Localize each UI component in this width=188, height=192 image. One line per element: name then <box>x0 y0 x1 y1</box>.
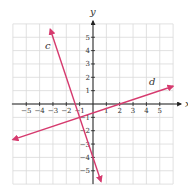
line-c-label: c <box>45 40 51 51</box>
x-tick-label: 2 <box>117 107 121 115</box>
y-tick-label: 4 <box>86 47 91 55</box>
coordinate-plane: xy −5−4−3−2−112345−5−4−3−2−112345 cd <box>0 0 188 192</box>
x-tick-label: −2 <box>61 107 71 115</box>
y-tick-label: 5 <box>86 34 90 42</box>
y-axis-label: y <box>89 6 96 17</box>
line-d-label: d <box>149 76 155 87</box>
y-tick-label: −4 <box>80 154 91 162</box>
x-axis-label: x <box>185 98 188 109</box>
x-tick-label: −3 <box>48 107 58 115</box>
x-tick-label: −5 <box>21 107 31 115</box>
x-tick-label: 4 <box>144 107 149 115</box>
y-tick-label: 2 <box>86 74 90 82</box>
x-tick-label: 3 <box>131 107 135 115</box>
y-tick-label: 1 <box>86 87 90 95</box>
x-tick-label: 5 <box>158 107 162 115</box>
y-tick-label: 3 <box>86 60 90 68</box>
x-tick-label: −4 <box>34 107 45 115</box>
y-tick-label: −5 <box>80 167 90 175</box>
